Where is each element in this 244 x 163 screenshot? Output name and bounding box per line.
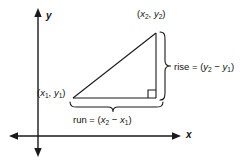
run-minus: − bbox=[109, 114, 120, 125]
point-1-x-sub: 1 bbox=[45, 92, 49, 99]
rise-word: rise bbox=[174, 61, 189, 72]
run-equals: = ( bbox=[87, 114, 101, 125]
rise-subtrahend-sub: 1 bbox=[227, 66, 231, 73]
point-2-label: (x2, y2) bbox=[137, 9, 165, 19]
rise-brace bbox=[160, 32, 171, 100]
diagram-canvas bbox=[0, 0, 244, 163]
y-axis-up-arrowhead bbox=[34, 8, 41, 17]
x-axis-right-arrowhead bbox=[172, 132, 181, 139]
run-minuend-sub: 2 bbox=[105, 119, 109, 126]
point-2-y-var: y bbox=[154, 8, 159, 19]
point-1-label: (x1, y1) bbox=[37, 88, 65, 98]
slope-diagram: (x2, y2) (x1, y1) rise = (y2 − y1) run =… bbox=[0, 0, 244, 163]
right-angle-marker bbox=[148, 90, 156, 98]
point-2-y-sub: 2 bbox=[159, 13, 163, 20]
y-axis-down-arrowhead bbox=[34, 148, 41, 157]
triangle-hypotenuse bbox=[73, 33, 156, 98]
point-1-close-paren: ) bbox=[62, 87, 65, 98]
run-label: run = (x2 − x1) bbox=[73, 115, 132, 125]
point-1-y-sub: 1 bbox=[59, 92, 63, 99]
point-2-x-sub: 2 bbox=[145, 13, 149, 20]
rise-minus: − bbox=[212, 61, 223, 72]
run-word: run bbox=[73, 114, 87, 125]
rise-equals: = ( bbox=[189, 61, 203, 72]
rise-label: rise = (y2 − y1) bbox=[174, 62, 234, 72]
run-brace bbox=[70, 102, 163, 112]
y-axis-label: y bbox=[46, 11, 52, 21]
point-2-close-paren: ) bbox=[162, 8, 165, 19]
x-axis-label: x bbox=[186, 130, 192, 140]
point-1-y-var: y bbox=[54, 87, 59, 98]
rise-minuend-sub: 2 bbox=[208, 66, 212, 73]
run-subtrahend-sub: 1 bbox=[125, 119, 129, 126]
rise-close-paren: ) bbox=[231, 61, 234, 72]
x-axis-left-arrowhead bbox=[9, 132, 18, 139]
run-close-paren: ) bbox=[128, 114, 131, 125]
